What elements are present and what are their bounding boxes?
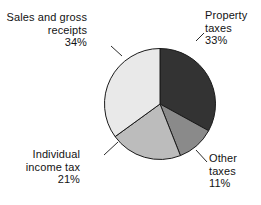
pie-value-individual-income-tax: 21% [26,173,80,186]
pie-label-other-taxes: Other taxes 11% [209,152,237,190]
pie-label-property-taxes-line1: Property [205,9,247,22]
pie-chart: Property taxes 33% Other taxes 11% Indiv… [0,0,261,205]
pie-label-individual-income-tax: Individual income tax 21% [26,148,80,186]
leader-line-property-taxes [196,33,204,41]
pie-label-sales-and-gross-receipts: Sales and gross receipts 34% [7,11,87,49]
leader-line-individual-income-tax [104,142,118,155]
pie-label-individual-income-tax-line1: Individual [26,148,80,161]
pie-label-individual-income-tax-line2: income tax [26,161,80,174]
pie-label-sales-and-gross-receipts-line1: Sales and gross [7,11,87,24]
pie-label-other-taxes-line1: Other [209,152,237,165]
pie-label-property-taxes: Property taxes 33% [205,9,247,47]
pie-value-other-taxes: 11% [209,177,237,190]
pie-label-property-taxes-line2: taxes [205,22,247,35]
pie-label-other-taxes-line2: taxes [209,165,237,178]
pie-value-property-taxes: 33% [205,34,247,47]
leader-line-other-taxes [196,150,207,162]
pie-label-sales-and-gross-receipts-line2: receipts [7,24,87,37]
leader-line-sales-and-gross-receipts [111,46,122,56]
pie-value-sales-and-gross-receipts: 34% [7,36,87,49]
